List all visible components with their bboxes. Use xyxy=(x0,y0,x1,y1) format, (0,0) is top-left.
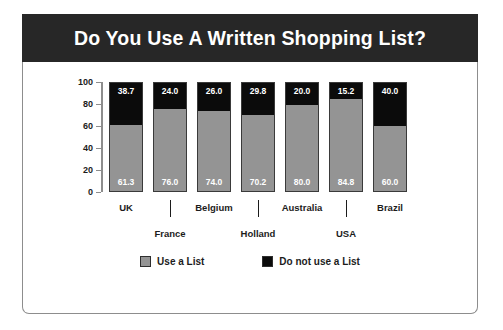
bar-group: 38.761.324.076.026.074.029.870.220.080.0… xyxy=(109,82,455,192)
bar-column: 20.080.0 xyxy=(285,82,319,192)
bar-value-label: 74.0 xyxy=(198,178,230,187)
page-title: Do You Use A Written Shopping List? xyxy=(74,27,426,50)
category-label-france: France xyxy=(153,196,187,244)
category-label-australia: Australia xyxy=(285,196,319,244)
bar-column: 29.870.2 xyxy=(241,82,275,192)
stacked-bar: 40.060.0 xyxy=(373,82,407,192)
bar-segment-use-a-list: 76.0 xyxy=(154,109,186,191)
y-axis-tick xyxy=(96,192,101,193)
bar-column: 40.060.0 xyxy=(373,82,407,192)
legend-label: Use a List xyxy=(157,257,204,267)
bar-value-label: 26.0 xyxy=(198,87,230,96)
category-label-belgium: Belgium xyxy=(197,196,231,244)
category-label-text: UK xyxy=(95,203,157,213)
bar-segment-do-not-use-a-list: 26.0 xyxy=(198,83,230,111)
y-axis-tick xyxy=(96,104,101,105)
y-axis-label: 40 xyxy=(83,144,93,153)
y-axis-line xyxy=(101,82,103,192)
bar-segment-do-not-use-a-list: 15.2 xyxy=(330,83,362,99)
bar-value-label: 40.0 xyxy=(374,87,406,96)
y-axis-label: 80 xyxy=(83,100,93,109)
category-label-uk: UK xyxy=(109,196,143,244)
bar-segment-do-not-use-a-list: 38.7 xyxy=(110,83,142,125)
bar-segment-do-not-use-a-list: 20.0 xyxy=(286,83,318,105)
bar-value-label: 60.0 xyxy=(374,178,406,187)
category-label-text: France xyxy=(139,229,201,239)
stacked-bar: 15.284.8 xyxy=(329,82,363,192)
category-label-usa: USA xyxy=(329,196,363,244)
bar-segment-use-a-list: 84.8 xyxy=(330,99,362,191)
category-label-text: Belgium xyxy=(183,203,245,213)
plot-area: 100806040200 38.761.324.076.026.074.029.… xyxy=(61,82,455,192)
bar-value-label: 76.0 xyxy=(154,178,186,187)
bar-value-label: 24.0 xyxy=(154,87,186,96)
legend-swatch xyxy=(262,256,273,267)
chart-body: 100806040200 38.761.324.076.026.074.029.… xyxy=(22,60,478,314)
bar-value-label: 29.8 xyxy=(242,87,274,96)
stacked-bar: 26.074.0 xyxy=(197,82,231,192)
y-axis-tick xyxy=(96,148,101,149)
bar-segment-use-a-list: 60.0 xyxy=(374,126,406,191)
y-axis-label: 100 xyxy=(78,78,93,87)
stacked-bar: 38.761.3 xyxy=(109,82,143,192)
category-label-text: Brazil xyxy=(359,203,421,213)
y-axis-label: 20 xyxy=(83,166,93,175)
legend-item: Do not use a List xyxy=(262,256,360,267)
category-label-text: Australia xyxy=(271,203,333,213)
bar-value-label: 20.0 xyxy=(286,87,318,96)
chart-legend: Use a ListDo not use a List xyxy=(23,256,477,267)
bar-segment-use-a-list: 61.3 xyxy=(110,125,142,191)
category-tick xyxy=(258,200,260,217)
y-axis-tick xyxy=(96,170,101,171)
bar-segment-do-not-use-a-list: 24.0 xyxy=(154,83,186,109)
y-axis: 100806040200 xyxy=(61,82,103,192)
bar-value-label: 61.3 xyxy=(110,178,142,187)
stacked-bar: 20.080.0 xyxy=(285,82,319,192)
category-label-text: USA xyxy=(315,229,377,239)
bar-segment-use-a-list: 80.0 xyxy=(286,105,318,191)
category-tick xyxy=(346,200,348,217)
bar-column: 26.074.0 xyxy=(197,82,231,192)
bar-segment-use-a-list: 70.2 xyxy=(242,115,274,191)
bar-segment-use-a-list: 74.0 xyxy=(198,111,230,191)
bar-segment-do-not-use-a-list: 29.8 xyxy=(242,83,274,115)
bar-value-label: 80.0 xyxy=(286,178,318,187)
category-label-brazil: Brazil xyxy=(373,196,407,244)
y-axis-tick xyxy=(96,126,101,127)
legend-label: Do not use a List xyxy=(279,257,360,267)
bar-value-label: 84.8 xyxy=(330,178,362,187)
bar-value-label: 38.7 xyxy=(110,87,142,96)
bar-segment-do-not-use-a-list: 40.0 xyxy=(374,83,406,126)
y-axis-tick xyxy=(96,82,101,83)
bar-value-label: 15.2 xyxy=(330,87,362,96)
chart-header: Do You Use A Written Shopping List? xyxy=(22,14,478,62)
stacked-bar: 29.870.2 xyxy=(241,82,275,192)
chart-card: Do You Use A Written Shopping List? 1008… xyxy=(22,14,478,314)
bar-column: 38.761.3 xyxy=(109,82,143,192)
bar-column: 15.284.8 xyxy=(329,82,363,192)
category-label-holland: Holland xyxy=(241,196,275,244)
bar-value-label: 70.2 xyxy=(242,178,274,187)
category-label-text: Holland xyxy=(227,229,289,239)
legend-swatch xyxy=(140,256,151,267)
stacked-bar: 24.076.0 xyxy=(153,82,187,192)
category-tick xyxy=(170,200,172,217)
y-axis-label: 60 xyxy=(83,122,93,131)
legend-item: Use a List xyxy=(140,256,204,267)
y-axis-label: 0 xyxy=(88,188,93,197)
bar-column: 24.076.0 xyxy=(153,82,187,192)
category-axis: UKFranceBelgiumHollandAustraliaUSABrazil xyxy=(109,196,453,244)
